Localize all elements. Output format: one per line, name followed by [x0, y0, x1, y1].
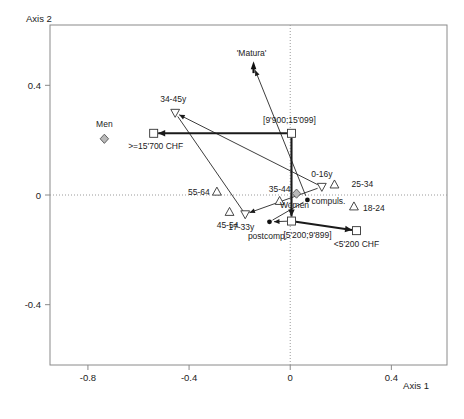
marker-dot: [267, 219, 272, 224]
point-label: Women: [280, 200, 309, 210]
connector-line: [158, 130, 287, 136]
point-label: 55-64: [188, 187, 210, 197]
y-axis-title: Axis 2: [26, 13, 52, 24]
marker-triangle-up: [350, 202, 359, 210]
point-label: postcomp.: [248, 231, 287, 241]
marker-triangle-up: [225, 207, 234, 215]
point-label: Men: [96, 119, 113, 129]
point-label: >=15'700 CHF: [128, 141, 183, 151]
marker-triangle-down: [241, 211, 250, 219]
point-label: <5'200 CHF: [334, 239, 379, 249]
connector-line: [274, 219, 287, 224]
point-label: 0-16y: [311, 169, 333, 179]
y-tick-label: -0.4: [25, 299, 41, 310]
point-label: compuls.: [311, 196, 345, 206]
y-tick-label: 0: [36, 190, 41, 201]
axis-tick-labels: -0.8-0.400.40.40-0.4: [25, 80, 398, 383]
x-tick-label: 0: [288, 372, 293, 383]
point-label: 18-24: [363, 203, 385, 213]
marker-square: [287, 129, 295, 137]
marker-triangle-up: [330, 180, 339, 188]
data-point-labels: MenWomen>=15'700 CHF[9'900;15'099][5'200…: [96, 48, 385, 249]
x-axis-title: Axis 1: [403, 380, 429, 391]
marker-triangle-up: [212, 187, 221, 195]
marker-square: [352, 227, 360, 235]
point-label: 35-44: [269, 184, 291, 194]
marker-square: [287, 217, 295, 225]
y-tick-label: 0.4: [28, 80, 41, 91]
x-tick-label: 0.4: [385, 372, 398, 383]
x-tick-label: -0.8: [80, 372, 96, 383]
marker-diamond: [100, 134, 108, 143]
x-tick-label: -0.4: [181, 372, 197, 383]
marker-square: [150, 129, 158, 137]
point-label: 25-34: [351, 179, 373, 189]
biplot-canvas: -0.8-0.400.40.40-0.4 MenWomen>=15'700 CH…: [0, 0, 464, 419]
point-label: 45-54: [217, 220, 239, 230]
point-label: 'Matura': [237, 48, 267, 58]
zero-reference-lines: [50, 25, 447, 365]
point-label: [5'200;9'899]: [283, 230, 331, 240]
point-label: [9'900;15'099]: [263, 115, 316, 125]
marker-triangle-down: [171, 109, 180, 117]
point-label: 34-45y: [160, 94, 187, 104]
marker-triangle-down: [317, 183, 326, 191]
scatter-plot-figure: -0.8-0.400.40.40-0.4 MenWomen>=15'700 CH…: [0, 0, 464, 419]
connector-lines: [158, 70, 352, 232]
